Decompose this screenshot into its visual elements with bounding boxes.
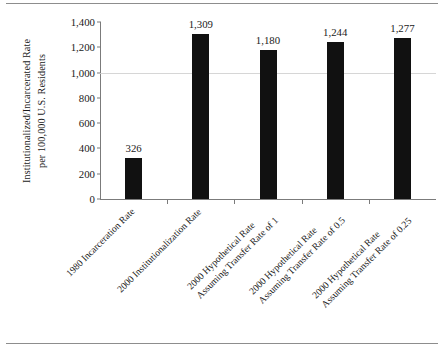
plot-area: 02004006008001,0001,2001,4003261,3091,18… — [100, 22, 436, 199]
bar-value-label: 1,244 — [323, 26, 347, 38]
x-axis-tick-mark — [369, 199, 370, 204]
x-axis-category-label[interactable]: 1980 Incarceration Rate — [63, 205, 137, 279]
y-axis-title-line-1: Institutionalized/Incarcerated Rate — [19, 38, 34, 182]
y-axis-tick-label: 1,200 — [71, 41, 95, 53]
bar-value-label: 1,277 — [390, 22, 414, 34]
bar-value-label: 1,309 — [189, 18, 213, 30]
bar[interactable] — [394, 38, 411, 199]
bar-value-label: 1,180 — [256, 34, 280, 46]
y-axis-tick-mark — [97, 199, 101, 200]
y-axis-tick-mark — [97, 47, 101, 48]
y-axis-tick-label: 1,000 — [71, 67, 95, 79]
y-axis-tick-mark — [97, 22, 101, 23]
y-axis-tick-mark — [97, 97, 101, 98]
y-axis-title: Institutionalized/Incarcerated Rate per … — [14, 18, 54, 203]
bar-value-label: 326 — [125, 142, 141, 154]
y-axis-tick-mark — [97, 148, 101, 149]
y-axis-tick-label: 600 — [79, 117, 95, 129]
bar[interactable] — [192, 34, 209, 199]
y-axis-tick-label: 0 — [90, 193, 95, 205]
y-axis-tick-mark — [97, 173, 101, 174]
y-axis-title-line-2: per 100,000 U.S. Residents — [34, 38, 49, 182]
bar-chart-figure: Institutionalized/Incarcerated Rate per … — [0, 0, 444, 349]
y-axis-tick-label: 200 — [79, 168, 95, 180]
bar[interactable] — [327, 42, 344, 199]
y-axis-tick-mark — [97, 123, 101, 124]
y-axis-tick-label: 1,400 — [71, 16, 95, 28]
y-axis-tick-label: 400 — [79, 142, 95, 154]
x-axis-line — [100, 199, 436, 200]
x-axis-category-label-line-1: 1980 Incarceration Rate — [63, 205, 137, 279]
y-axis-tick-label: 800 — [79, 92, 95, 104]
bar[interactable] — [125, 158, 142, 199]
x-axis-tick-mark — [167, 199, 168, 204]
bar[interactable] — [260, 50, 277, 199]
x-axis-tick-mark — [302, 199, 303, 204]
x-axis-tick-mark — [234, 199, 235, 204]
